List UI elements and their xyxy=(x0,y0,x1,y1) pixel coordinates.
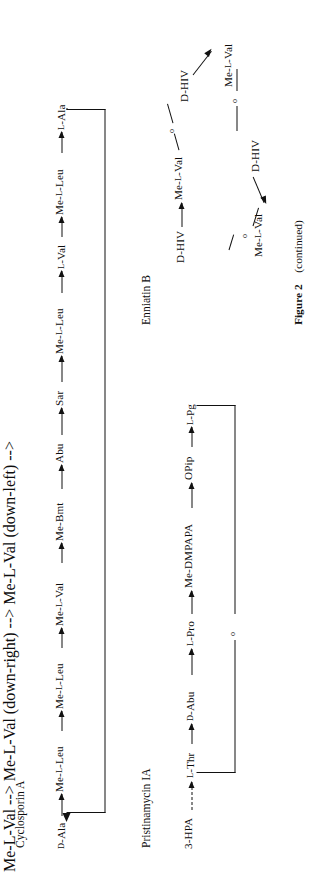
e-bond-seg-f xyxy=(228,235,234,251)
residue-l-val: l-Val xyxy=(55,245,66,269)
residue-d-abu: d-Abu xyxy=(184,692,195,722)
panel-title-enniatin-b: Enniatin B xyxy=(140,275,152,325)
ring-node-d-hiv-1: D-HIV xyxy=(174,231,185,263)
figure-page: Cyclosporin A d-Ala Me-l-Leu Me-l-Leu Me… xyxy=(0,0,319,872)
p-bond-arrow-2 xyxy=(191,649,192,675)
ring-node-d-hiv-2: D-HIV xyxy=(178,70,189,102)
panel-title-pristinamycin-ia: Pristinamycin IA xyxy=(140,768,152,848)
residue-me-l-leu-3: Me-l-Leu xyxy=(53,308,64,354)
bond-arrow-3 xyxy=(61,628,62,648)
e-bond-seg-a xyxy=(173,134,179,151)
residue-l-ala: l-Ala xyxy=(55,105,66,130)
residue-abu: Abu xyxy=(53,443,64,463)
bridge-oxygen-pristinamycin: o xyxy=(228,632,236,636)
bond-arrow-6 xyxy=(61,408,62,435)
residue-me-l-leu-2: Me-l-Leu xyxy=(53,663,64,709)
p-bond-arrow-5 xyxy=(191,427,192,447)
ring-oxygen-1: o xyxy=(167,129,175,133)
residue-d-ala: d-Ala xyxy=(55,823,66,849)
residue-opip: OPip xyxy=(182,457,193,480)
cycle-bracket-bottom xyxy=(104,109,105,813)
ring-oxygen-3: o xyxy=(240,234,248,238)
cycle-closure-arrowhead xyxy=(62,813,70,822)
e-bond-seg-c xyxy=(236,69,237,91)
e-bond-seg-d xyxy=(236,106,237,131)
p-cycle-bracket-left xyxy=(196,772,235,773)
residue-me-l-val: Me-l-Val xyxy=(53,583,64,626)
residue-me-bmt: Me-Bmt xyxy=(53,502,64,541)
residue-3-hpa: 3-HPA xyxy=(182,818,193,849)
cycle-bracket-right xyxy=(66,109,105,110)
p-cycle-bracket-left-seg xyxy=(234,640,235,773)
p-bond-arrow-4 xyxy=(191,483,192,508)
residue-l-pg: l-Pg xyxy=(184,404,195,425)
ring-node-me-l-val-2: Me-l-Val xyxy=(222,44,233,87)
residue-me-l-leu-4: Me-l-Leu xyxy=(53,169,64,215)
panel-enniatin-b: Enniatin B D-HIV Me-l-Val D-HIV Me-l-Val… xyxy=(0,0,18,872)
residue-sar: Sar xyxy=(53,391,64,406)
bond-arrow-9 xyxy=(61,217,62,237)
bond-arrow-10 xyxy=(61,132,62,153)
bond-arrow-2 xyxy=(61,711,62,731)
figure-caption: Figure 2 (continued) xyxy=(292,220,303,325)
p-cycle-bracket-right xyxy=(196,405,235,406)
ring-node-me-l-val-1: Me-l-Val xyxy=(172,157,183,200)
cycle-bracket-right-cap xyxy=(66,109,67,111)
residue-me-l-leu-1: Me-l-Leu xyxy=(53,746,64,792)
p-cycle-bracket-right-seg xyxy=(234,405,235,614)
residue-me-dmpapa: Me-DMPAPA xyxy=(182,524,193,588)
residue-l-thr: l-Thr xyxy=(184,753,195,778)
cycle-bracket-left xyxy=(66,812,105,813)
e-bond-arrow-1 xyxy=(181,203,182,227)
figure-caption-label: Figure 2 xyxy=(291,284,303,325)
e-bond-arrow-2 xyxy=(192,51,211,75)
bond-arrow-7 xyxy=(61,356,62,382)
ring-oxygen-2: o xyxy=(230,99,238,103)
figure-sheet: Cyclosporin A d-Ala Me-l-Leu Me-l-Leu Me… xyxy=(0,0,319,872)
p-bond-arrow-1 xyxy=(191,724,192,744)
bond-arrow-5 xyxy=(61,465,62,489)
e-bond-arrow-3 xyxy=(252,177,264,203)
figure-caption-note: (continued) xyxy=(291,220,303,273)
bond-arrow-4 xyxy=(61,543,62,563)
starter-dashed-arrow xyxy=(191,782,192,810)
bond-arrow-8 xyxy=(61,271,62,293)
residue-l-pro: l-Pro xyxy=(184,621,195,646)
panel-title-cyclosporin-a: Cyclosporin A xyxy=(14,781,26,848)
p-bond-arrow-3 xyxy=(191,591,192,614)
e-bond-seg-b xyxy=(167,104,174,124)
ring-node-d-hiv-3: D-HIV xyxy=(249,140,260,172)
